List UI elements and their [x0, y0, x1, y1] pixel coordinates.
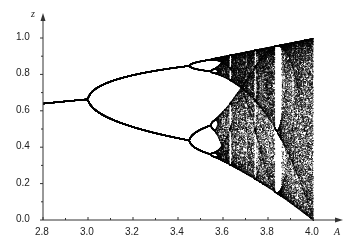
chart-axes: [0, 0, 358, 251]
x-tick-label: 3.0: [80, 226, 94, 237]
x-tick-label: 3.4: [170, 226, 184, 237]
x-tick-label: 2.8: [35, 226, 49, 237]
x-tick-label: 3.8: [260, 226, 274, 237]
x-tick-label: 3.6: [215, 226, 229, 237]
x-tick-label: 3.2: [125, 226, 139, 237]
y-tick-label: 0.8: [16, 67, 30, 78]
y-tick-label: 0.6: [16, 104, 30, 115]
y-tick-label: 0.0: [16, 213, 30, 224]
y-tick-label: 1.0: [16, 31, 30, 42]
y-axis-label: z: [31, 8, 35, 19]
y-axis-arrow-icon: [41, 13, 46, 21]
x-tick-label: 4.0: [305, 226, 319, 237]
x-axis-label: A: [334, 226, 340, 237]
y-tick-label: 0.2: [16, 177, 30, 188]
x-axis-arrow-icon: [335, 218, 343, 223]
y-tick-label: 0.4: [16, 140, 30, 151]
